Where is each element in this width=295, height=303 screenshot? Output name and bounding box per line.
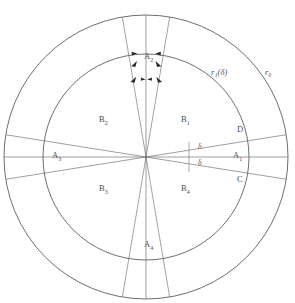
label-a3: A3 xyxy=(52,151,61,162)
figure-container: A2 A4 A1 A3 D C B2 B1 B3 B4 δ δ r₁(δ) r₀ xyxy=(0,0,295,303)
label-delta-upper: δ xyxy=(198,143,202,151)
label-outer-radius: r₀ xyxy=(265,68,271,77)
label-a1: A1 xyxy=(233,151,242,162)
wedge-line-bottom-left xyxy=(122,157,146,297)
arrowhead-3 xyxy=(130,77,136,83)
label-c: C xyxy=(237,175,243,184)
label-b4: B4 xyxy=(181,184,190,195)
label-b1: B1 xyxy=(181,115,190,126)
diagram-canvas xyxy=(0,0,295,303)
arrowhead-7 xyxy=(141,77,146,80)
label-a2: A2 xyxy=(144,52,153,63)
wedge-line-top-left xyxy=(122,17,146,157)
arrowhead-1 xyxy=(131,61,137,67)
wedge-line-top-right xyxy=(146,17,170,157)
label-d: D xyxy=(237,125,243,134)
arrowhead-8 xyxy=(147,77,152,80)
label-inner-radius: r₁(δ) xyxy=(211,68,227,77)
label-a4: A4 xyxy=(144,240,153,251)
label-b3: B3 xyxy=(99,184,108,195)
arrowhead-2 xyxy=(156,61,162,67)
label-delta-lower: δ xyxy=(198,159,202,167)
wedge-line-bottom-right xyxy=(146,157,170,297)
label-b2: B2 xyxy=(99,115,108,126)
